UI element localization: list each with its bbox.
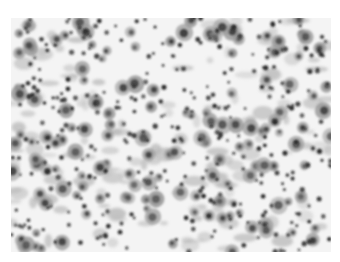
- small-cell: [56, 175, 61, 180]
- cell-nucleus: [286, 200, 290, 204]
- small-cell: [99, 235, 102, 238]
- small-cell: [15, 208, 18, 211]
- cell-nucleus: [247, 141, 253, 147]
- small-cell: [295, 101, 300, 106]
- small-cell: [132, 133, 137, 138]
- small-cell: [286, 89, 291, 94]
- small-cell: [198, 138, 202, 142]
- cell-nucleus: [63, 33, 68, 38]
- small-cell: [129, 212, 133, 216]
- small-cell: [87, 174, 92, 179]
- small-cell: [57, 110, 60, 113]
- small-cell: [198, 189, 203, 194]
- small-cell: [130, 96, 134, 100]
- small-cell: [239, 202, 242, 205]
- small-cell: [281, 182, 284, 185]
- small-cell: [88, 47, 91, 50]
- small-cell: [46, 145, 50, 149]
- cell-nucleus: [144, 206, 148, 210]
- cell-nucleus: [37, 190, 44, 197]
- small-cell: [27, 219, 30, 222]
- cell-nucleus: [22, 241, 30, 249]
- cell-nucleus: [264, 126, 269, 131]
- cell-nucleus: [157, 174, 161, 178]
- small-cell: [282, 150, 287, 155]
- small-cell: [26, 81, 31, 86]
- debris: [207, 57, 213, 63]
- small-cell: [66, 77, 71, 82]
- cell-nucleus: [129, 30, 135, 36]
- small-cell: [263, 65, 268, 70]
- small-cell: [149, 171, 153, 175]
- small-cell: [93, 102, 97, 106]
- cell-nucleus: [271, 163, 276, 168]
- small-cell: [69, 50, 74, 55]
- cell-nucleus: [218, 120, 227, 129]
- small-cell: [238, 214, 242, 218]
- cell-nucleus: [232, 120, 240, 128]
- small-cell: [229, 226, 232, 229]
- cell-nucleus: [99, 57, 103, 61]
- cell-nucleus: [52, 140, 58, 146]
- small-cell: [75, 167, 79, 171]
- small-cell: [133, 110, 137, 114]
- small-cell: [227, 81, 230, 84]
- small-cell: [191, 227, 196, 232]
- cell-nucleus: [263, 227, 270, 234]
- cell-nucleus: [204, 111, 209, 116]
- cell-nucleus: [229, 51, 234, 56]
- small-cell: [120, 38, 123, 41]
- small-cell: [261, 213, 266, 218]
- small-cell: [89, 144, 94, 149]
- small-cell: [123, 138, 127, 142]
- small-cell: [295, 224, 298, 227]
- cell-nucleus: [18, 133, 23, 138]
- small-cell: [185, 106, 190, 111]
- small-cell: [215, 162, 219, 166]
- small-cell: [263, 210, 267, 214]
- small-cell: [229, 217, 233, 221]
- small-cell: [290, 221, 293, 224]
- small-cell: [218, 133, 223, 138]
- small-cell: [31, 93, 35, 97]
- debris: [21, 110, 36, 116]
- small-cell: [160, 115, 163, 118]
- cell-nucleus: [179, 29, 188, 38]
- small-cell: [166, 180, 169, 183]
- small-cell: [246, 221, 249, 224]
- small-cell: [21, 84, 25, 88]
- small-cell: [231, 25, 236, 30]
- small-cell: [163, 114, 166, 117]
- cell-nucleus: [18, 31, 22, 35]
- cell-nucleus: [237, 144, 242, 149]
- small-cell: [269, 153, 273, 157]
- cell-nucleus: [148, 213, 156, 221]
- small-cell: [275, 171, 280, 176]
- cell-nucleus: [176, 188, 184, 196]
- debris: [165, 109, 173, 117]
- cell-nucleus: [296, 54, 301, 59]
- cell-nucleus: [152, 195, 160, 203]
- small-cell: [36, 141, 39, 144]
- small-cell: [212, 104, 216, 108]
- small-cell: [178, 43, 183, 48]
- micrograph-image: [11, 18, 331, 252]
- small-cell: [294, 140, 299, 145]
- small-cell: [133, 98, 137, 102]
- small-cell: [105, 209, 109, 213]
- cell-nucleus: [212, 34, 218, 40]
- small-cell: [315, 69, 319, 73]
- cell-nucleus: [131, 181, 138, 188]
- small-cell: [26, 30, 30, 34]
- small-cell: [283, 188, 286, 191]
- small-cell: [122, 122, 126, 126]
- small-cell: [275, 50, 280, 55]
- small-cell: [55, 96, 59, 100]
- small-cell: [207, 214, 211, 218]
- small-cell: [65, 20, 69, 24]
- small-cell: [210, 235, 213, 238]
- small-cell: [244, 107, 247, 110]
- small-cell: [232, 203, 236, 207]
- small-cell: [103, 91, 106, 94]
- small-cell: [270, 22, 275, 27]
